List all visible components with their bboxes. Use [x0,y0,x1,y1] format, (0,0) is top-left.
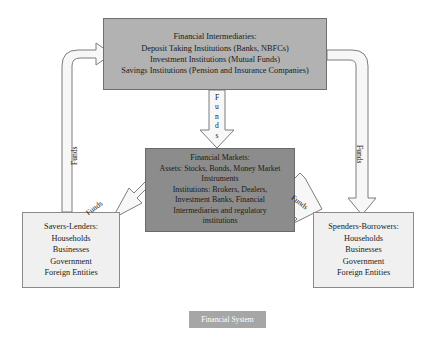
node-line: Foreign Entities [314,267,413,279]
node-line: institutions [146,216,294,227]
funds-letter: s [216,131,219,140]
node-line: Savers-Lenders: [23,221,119,233]
node-line: Households [23,233,119,245]
arrow-label-funds-right: Funds [355,145,364,164]
node-line: Businesses [23,244,119,256]
funds-letter: u [215,102,219,111]
funds-letter: d [215,121,219,130]
node-line: Financial Markets: [146,153,294,164]
node-line: Financial Intermediaries: [104,31,326,42]
node-line: Institutions: Brokers, Dealers, [146,185,294,196]
arrow-intermediaries-to-spenders [327,50,376,215]
node-financial-markets: Financial Markets: Assets: Stocks, Bonds… [145,148,295,232]
funds-letter: n [215,112,219,121]
node-spenders-borrowers: Spenders-Borrowers: Households Businesse… [313,212,414,288]
node-line: Intermediaries and regulatory [146,206,294,217]
node-line: Deposit Taking Institutions (Banks, NBFC… [104,43,326,54]
arrow-label-funds-left: Funds [70,146,79,165]
node-line: Instruments [146,174,294,185]
node-line: Spenders-Borrowers: [314,221,413,233]
diagram-caption: Financial System [189,311,266,328]
node-line: Savings Institutions (Pension and Insura… [104,65,326,76]
node-savers-lenders: Savers-Lenders: Households Businesses Go… [22,212,120,288]
node-line: Investment Institutions (Mutual Funds) [104,54,326,65]
node-line: Government [23,256,119,268]
arrow-label-funds-center: F u n d s [211,93,223,140]
node-line: Foreign Entities [23,267,119,279]
node-line: Government [314,256,413,268]
node-financial-intermediaries: Financial Intermediaries: Deposit Taking… [103,18,327,90]
node-line: Households [314,233,413,245]
node-line: Investment Banks, Financial [146,195,294,206]
node-line: Businesses [314,244,413,256]
funds-letter: F [215,93,219,102]
node-line: Assets: Stocks, Bonds, Money Market [146,164,294,175]
financial-system-diagram: Funds Funds Funds Funds F u n d s Financ… [0,0,434,338]
